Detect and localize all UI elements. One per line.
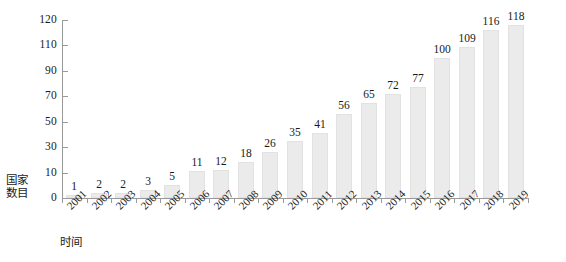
- x-axis-tick: [283, 198, 284, 203]
- bar: [361, 103, 377, 198]
- bar-value-label: 77: [402, 73, 434, 85]
- x-axis-tick: [136, 198, 137, 203]
- x-axis-tick: [185, 198, 186, 203]
- y-axis-title-line: 国家: [6, 174, 58, 187]
- bar: [434, 58, 450, 198]
- y-axis-tick: [63, 71, 68, 72]
- x-axis-title: 时间: [60, 236, 82, 248]
- bar-value-label: 18: [230, 148, 262, 160]
- y-axis-tick: [63, 147, 68, 148]
- y-axis-tick-label: 30: [27, 141, 57, 153]
- y-axis-tick: [63, 122, 68, 123]
- bar: [459, 47, 475, 198]
- bar-value-label: 41: [304, 119, 336, 131]
- bar-value-label: 5: [156, 171, 188, 183]
- x-axis-tick: [356, 198, 357, 203]
- bar-value-label: 100: [426, 44, 458, 56]
- bar-chart: 01030507090110120 1223511121826354156657…: [0, 0, 566, 262]
- bar-value-label: 26: [254, 138, 286, 150]
- x-axis-tick: [111, 198, 112, 203]
- x-axis-tick: [234, 198, 235, 203]
- bar: [508, 25, 524, 198]
- bar-value-label: 56: [328, 100, 360, 112]
- y-axis-tick-label: 70: [27, 90, 57, 102]
- x-axis-tick: [160, 198, 161, 203]
- x-axis-tick-label: 2003: [114, 188, 138, 212]
- x-axis-tick: [87, 198, 88, 203]
- x-axis-tick: [62, 198, 63, 203]
- x-axis-tick: [528, 198, 529, 203]
- y-axis-tick: [63, 45, 68, 46]
- bar: [483, 30, 499, 198]
- x-axis-tick: [454, 198, 455, 203]
- bar-value-label: 109: [451, 33, 483, 45]
- x-axis-tick: [479, 198, 480, 203]
- y-axis-tick: [63, 20, 68, 21]
- y-axis-tick-label: 90: [27, 65, 57, 77]
- y-axis-tick: [63, 96, 68, 97]
- x-axis-tick: [503, 198, 504, 203]
- x-axis-tick: [381, 198, 382, 203]
- y-axis-tick-label: 120: [27, 14, 57, 26]
- y-axis-tick: [63, 173, 68, 174]
- y-axis-line: [62, 20, 63, 198]
- x-axis-tick: [430, 198, 431, 203]
- x-axis-tick: [209, 198, 210, 203]
- x-axis-tick: [332, 198, 333, 203]
- bar: [410, 87, 426, 198]
- x-axis-tick: [258, 198, 259, 203]
- bar: [336, 114, 352, 198]
- x-axis-tick: [405, 198, 406, 203]
- bar: [385, 94, 401, 198]
- y-axis-tick-label: 110: [27, 39, 57, 51]
- y-axis-title-line: 数目: [6, 187, 58, 200]
- x-axis-tick: [307, 198, 308, 203]
- y-axis-tick-label: 50: [27, 116, 57, 128]
- y-axis-title: 国家数目: [6, 174, 58, 200]
- bar-value-label: 118: [500, 11, 532, 23]
